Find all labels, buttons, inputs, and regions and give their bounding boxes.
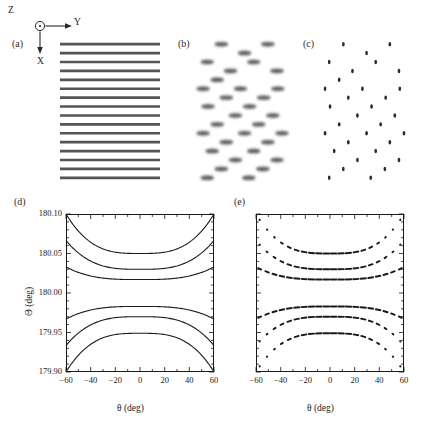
panel-e-marker [383,327,387,331]
panel-e-marker [294,248,300,252]
panel-e-x-ticklabel: 60 [390,375,418,385]
panel-e-marker [315,252,322,254]
panel-e-marker [265,332,269,335]
panel-e-marker [345,333,352,336]
schematic-c-dot [365,51,368,55]
panel-e-x-axis-title: θ (deg) [307,403,334,413]
panel-e-marker [345,268,352,270]
panel-e-marker [398,267,403,271]
panel-d-curve [66,215,214,254]
panel-d-x-ticklabel: 60 [200,375,228,385]
schematic-c-dot [338,78,341,82]
schematic-c-dot [374,149,377,153]
panel-e-marker [286,307,293,310]
schematic-c-dot [324,131,327,135]
schematic-b-dash [196,131,210,135]
panel-e-marker [360,306,367,309]
schematic-c-dot [361,86,364,90]
panel-d-y-axis-title: Θ (deg) [24,287,34,316]
panel-e-marker [301,267,308,270]
panel-e-marker [330,279,337,281]
panel-e-marker [368,319,374,323]
axis-ticks [66,214,214,372]
panel-e-marker [258,365,261,368]
panel-e-marker [360,248,366,252]
panel-e-marker [376,342,380,346]
panel-e-marker [345,278,352,280]
panel-e-marker [390,312,396,316]
schematic-c-dot [333,149,336,153]
panel-e-marker [271,310,277,313]
schematic-c-dot [342,167,345,171]
panel-d-x-axis-title: θ (deg) [117,403,144,413]
schematic-b-dash [201,104,215,108]
panel-e-plot [256,214,404,372]
schematic-c-dot [356,113,359,117]
panel-e-marker [323,305,330,307]
panel-e-marker [360,335,366,339]
schematic-b-dash [196,86,210,90]
panel-e-marker [330,332,337,334]
panel-e-marker [399,218,402,221]
panel-e-marker [375,308,382,311]
panel-e-marker [273,236,276,239]
schematic-b-dash [205,149,219,153]
panel-e-marker [360,318,367,321]
panel-e-marker [308,278,315,280]
panel-e-marker [352,316,359,319]
panel-e-marker [390,270,396,274]
schematic-b-dash [243,104,257,108]
schematic-c-dot [389,42,392,46]
panel-e-marker [353,250,360,253]
panel-e-marker [398,315,403,319]
panel-e-marker [257,315,262,319]
panel-e-marker [330,316,337,318]
panel-e-marker [287,337,292,341]
arrow-down-icon [37,47,43,54]
panel-e-marker [383,256,387,260]
schematic-b-dash [228,158,242,162]
panel-e-marker [266,228,269,231]
panel-e-marker [360,277,367,280]
panel-e-marker [308,268,315,270]
panel-e-marker [337,316,344,318]
panel-e-marker [315,316,322,318]
panel-e-marker [352,267,359,270]
panel-d-y-ticklabel: 180.10 [24,208,62,218]
schematic-b-dash [271,86,285,90]
schematic-b-dash [252,122,266,126]
schematic-c-dot [374,60,377,64]
schematic-b-dash [242,176,256,180]
panel-e-marker [315,268,322,270]
panel-e-marker [384,236,387,239]
schematic-c-dot [403,131,406,135]
panel-e-marker [293,265,300,268]
panel-d-y-ticklabel: 180.05 [24,248,62,258]
panel-e-marker [308,316,315,318]
schematic-b-dash [256,167,270,171]
panel-label-c: (c) [303,38,314,49]
panel-e-marker [353,333,360,336]
panel-e-marker [300,278,307,280]
panel-e-marker [367,276,374,279]
schematic-c-dot [328,176,331,180]
panel-e-marker [368,263,374,267]
panel-e-marker [352,306,359,308]
schematic-b-dash [266,113,280,117]
schematic-b-dash [238,131,252,135]
schematic-c-dot [351,69,354,73]
panel-e-marker [352,278,359,280]
schematic-c-dot [370,104,373,108]
panel-e-marker [279,322,284,326]
panel-e-marker [308,252,315,255]
panel-e-marker [279,308,286,311]
panel-e-marker [300,306,307,308]
schematic-b-dash [247,60,261,64]
panel-e-marker [375,260,380,264]
schematic-b-dash [261,42,275,46]
schematic-b-dash [214,167,228,171]
panel-e-marker [345,252,352,255]
panel-d-curve [66,317,214,346]
schematic-b-dash [247,149,261,153]
panel-e-marker [315,279,322,281]
